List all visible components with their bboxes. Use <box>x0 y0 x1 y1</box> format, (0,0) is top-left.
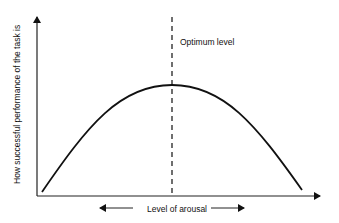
diagram-canvas <box>0 0 339 223</box>
optimum-level-label: Optimum level <box>180 37 234 47</box>
y-axis-label: How successful performance of the task i… <box>12 34 22 184</box>
x-axis-label: Level of arousal <box>147 204 207 214</box>
